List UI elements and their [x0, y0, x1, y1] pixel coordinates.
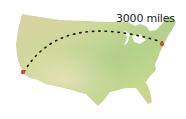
origin-marker	[21, 70, 25, 74]
destination-marker	[160, 42, 164, 46]
distance-label: 3000 miles	[116, 12, 175, 25]
